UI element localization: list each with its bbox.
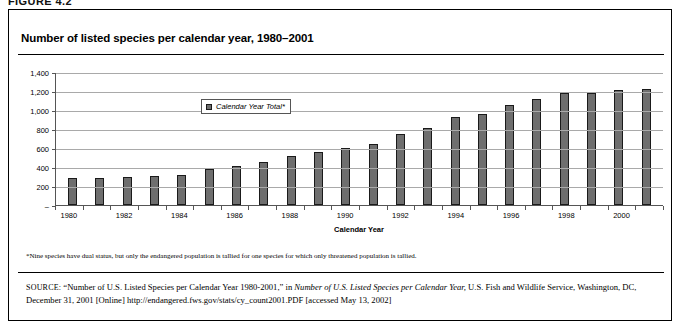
source-note: SOURCE: “Number of U.S. Listed Species p… — [26, 281, 654, 306]
x-axis-label: 1988 — [282, 211, 299, 220]
x-axis-tick — [359, 206, 360, 210]
x-axis-tick — [55, 206, 56, 210]
x-axis-tick — [663, 206, 664, 210]
bar — [532, 99, 541, 205]
x-axis-tick — [193, 206, 194, 210]
bar — [95, 178, 104, 205]
x-axis-label: 1986 — [226, 211, 243, 220]
grid-line — [56, 92, 663, 93]
x-axis-labels: 1980198219841986198819901992199419961998… — [55, 211, 663, 225]
grid-line — [56, 187, 663, 188]
grid-line — [56, 149, 663, 150]
y-axis-label: 1,000 — [30, 107, 49, 116]
y-axis-tick — [52, 92, 56, 93]
x-axis-label: 1998 — [558, 211, 575, 220]
plot-canvas — [55, 73, 663, 206]
source-divider — [18, 272, 664, 273]
x-axis-tick — [497, 206, 498, 210]
title-divider — [18, 54, 664, 55]
bar — [68, 178, 77, 205]
y-axis-label: 400 — [36, 164, 49, 173]
x-axis-tick — [304, 206, 305, 210]
y-axis-label: – — [45, 202, 49, 211]
x-axis-tick — [525, 206, 526, 210]
y-axis-label: 600 — [36, 145, 49, 154]
x-axis-tick — [635, 206, 636, 210]
chart-legend: Calendar Year Total* — [201, 99, 291, 114]
x-axis-tick — [276, 206, 277, 210]
chart-footnote: *Nine species have dual status, but only… — [26, 252, 656, 261]
grid-line — [56, 73, 663, 74]
x-axis-label: 1992 — [392, 211, 409, 220]
y-axis-label: 1,200 — [30, 88, 49, 97]
bar — [150, 176, 159, 205]
source-keyword: SOURCE: — [26, 283, 61, 292]
bar — [505, 105, 514, 205]
y-axis-tick — [52, 168, 56, 169]
x-axis-tick — [414, 206, 415, 210]
x-axis-label: 1984 — [171, 211, 188, 220]
x-axis-tick — [470, 206, 471, 210]
y-axis-tick — [52, 187, 56, 188]
grid-line — [56, 111, 663, 112]
x-axis-tick — [110, 206, 111, 210]
grid-line — [56, 168, 663, 169]
figure-page: FIGURE 4.2 Number of listed species per … — [0, 0, 682, 333]
x-axis-label: 1994 — [447, 211, 464, 220]
bar — [314, 152, 323, 205]
grid-line — [56, 130, 663, 131]
bar — [369, 144, 378, 205]
x-axis-tick — [608, 206, 609, 210]
bar — [396, 134, 405, 205]
x-axis-label: 2000 — [613, 211, 630, 220]
chart-plot-area: 1,4001,2001,000800600400200– 19801982198… — [18, 62, 666, 237]
legend-label: Calendar Year Total* — [216, 102, 285, 111]
x-axis-tick — [331, 206, 332, 210]
bar — [232, 166, 241, 205]
bar — [423, 128, 432, 205]
figure-frame: Number of listed species per calendar ye… — [8, 9, 672, 321]
x-axis-label: 1996 — [503, 211, 520, 220]
y-axis-tick — [52, 111, 56, 112]
bar — [123, 177, 132, 205]
x-axis-tick — [248, 206, 249, 210]
y-axis-tick — [52, 149, 56, 150]
x-axis-tick — [83, 206, 84, 210]
y-axis-labels: 1,4001,2001,000800600400200– — [18, 62, 52, 202]
x-axis-tick — [442, 206, 443, 210]
legend-swatch-icon — [206, 104, 212, 110]
figure-caption: FIGURE 4.2 — [8, 0, 72, 7]
x-axis-tick — [552, 206, 553, 210]
x-axis-tick — [387, 206, 388, 210]
x-axis-title: Calendar Year — [55, 225, 663, 234]
bar — [478, 114, 487, 205]
x-axis-tick — [221, 206, 222, 210]
bar — [287, 156, 296, 205]
source-italic-title: Number of U.S. Listed Species per Calend… — [294, 282, 466, 292]
y-axis-tick — [52, 130, 56, 131]
chart-title: Number of listed species per calendar ye… — [21, 32, 314, 44]
x-axis-tick — [138, 206, 139, 210]
bar — [177, 175, 186, 205]
y-axis-tick — [52, 73, 56, 74]
y-axis-label: 1,400 — [30, 69, 49, 78]
source-text-1: “Number of U.S. Listed Species per Calen… — [61, 282, 294, 292]
x-axis-label: 1982 — [116, 211, 133, 220]
bar — [341, 148, 350, 205]
x-axis-tick — [166, 206, 167, 210]
x-axis-label: 1990 — [337, 211, 354, 220]
y-axis-label: 800 — [36, 126, 49, 135]
x-axis-tick — [580, 206, 581, 210]
x-axis-label: 1980 — [60, 211, 77, 220]
y-axis-label: 200 — [36, 183, 49, 192]
